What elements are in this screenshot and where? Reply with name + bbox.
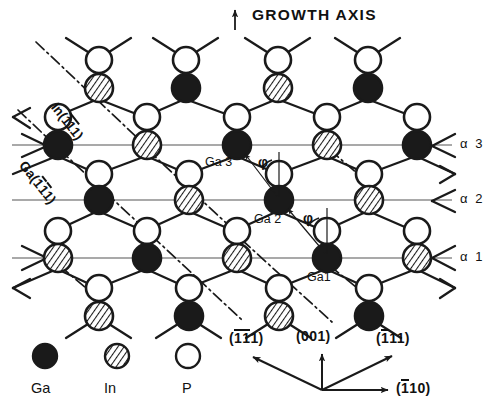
- atom-p: [356, 161, 382, 187]
- alpha-2-label: α 2: [460, 191, 484, 206]
- ga3-label: Ga 3: [205, 155, 232, 169]
- atom-p: [224, 104, 250, 130]
- atom-p: [176, 275, 202, 301]
- atom-row-p-4: [45, 218, 430, 244]
- dir-001-label: (001): [296, 328, 331, 344]
- atom-row-p-top: [86, 47, 381, 73]
- legend-p-symbol: [176, 344, 200, 368]
- atom-row-p-5: [86, 275, 382, 301]
- phi-upper-label: φ: [258, 154, 268, 170]
- atom-in: [403, 244, 431, 272]
- atom-ga: [175, 302, 203, 330]
- legend-symbols: [33, 344, 200, 368]
- dir-1bar1bar1-label: (111): [229, 330, 264, 346]
- atom-in: [44, 244, 72, 272]
- atom-in: [223, 244, 251, 272]
- atom-p: [404, 218, 430, 244]
- dangling-bonds-top: [66, 38, 400, 52]
- atom-ga: [133, 244, 161, 272]
- legend-ga-label: Ga: [31, 380, 50, 396]
- atom-in: [85, 74, 113, 102]
- atom-p: [45, 218, 71, 244]
- page-title: GROWTH AXIS: [252, 6, 377, 24]
- atom-in: [175, 186, 203, 214]
- atom-p: [266, 275, 292, 301]
- ga1-label: Ga1: [307, 270, 331, 284]
- atom-in: [264, 74, 292, 102]
- atom-ga: [85, 186, 113, 214]
- atom-row-cation-top: [85, 74, 382, 102]
- atom-ga: [354, 74, 382, 102]
- ga2-label: Ga 2: [254, 212, 281, 226]
- atom-ga: [355, 302, 383, 330]
- legend-in-label: In: [104, 380, 116, 396]
- axis-1bar1bar1-arrow: [253, 357, 322, 390]
- dir-1bar11-label: (111): [376, 330, 410, 346]
- alpha-1-label: α 1: [460, 249, 484, 264]
- atom-p: [355, 47, 381, 73]
- atom-p: [173, 47, 199, 73]
- figure-root: GROWTH AXIS α 3 α 2 α 1 Ga 3 Ga 2 Ga1 φ …: [0, 0, 501, 418]
- lattice-diagram: [0, 0, 501, 418]
- alpha-3-label: α 3: [460, 136, 484, 151]
- axis-1bar11-arrow: [322, 356, 392, 390]
- atom-p: [176, 161, 202, 187]
- atom-p: [224, 218, 250, 244]
- atom-p: [86, 161, 112, 187]
- atom-in: [85, 302, 113, 330]
- legend-ga-symbol: [33, 344, 57, 368]
- legend-p-label: P: [182, 380, 192, 396]
- atom-ga: [172, 74, 200, 102]
- atom-p: [134, 218, 160, 244]
- atom-row-p-2: [45, 104, 430, 130]
- atom-p: [134, 104, 160, 130]
- phi-lower-label: φ: [303, 210, 313, 226]
- atom-in: [265, 302, 293, 330]
- atom-ga: [403, 131, 431, 159]
- atom-in: [355, 186, 383, 214]
- atom-p: [265, 47, 291, 73]
- atom-p: [86, 275, 112, 301]
- dir-1bar10-label: (110): [396, 380, 431, 396]
- atom-row-cation-bottom: [85, 302, 383, 330]
- atom-p: [314, 104, 340, 130]
- atom-p: [86, 47, 112, 73]
- atom-p: [404, 104, 430, 130]
- atom-in: [313, 131, 341, 159]
- legend-in-symbol: [105, 344, 129, 368]
- atom-row-p-3: [86, 161, 382, 187]
- direction-axes: [253, 354, 392, 390]
- atom-in: [133, 131, 161, 159]
- atom-p: [356, 275, 382, 301]
